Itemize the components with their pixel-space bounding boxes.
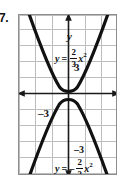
tick-label-x-negative: –3: [38, 108, 49, 119]
equation-lower-exponent: 2: [89, 162, 93, 169]
equation-upper-exponent: 2: [83, 52, 87, 59]
equation-upper-equals: =: [61, 54, 67, 64]
equation-lower-denominator: 3: [76, 170, 83, 175]
equation-lower-numerator: 2: [76, 158, 83, 167]
tick-label-y-negative: –3: [74, 145, 84, 155]
equation-label-downward-parabola: y = – 2 3 x 2: [55, 158, 93, 175]
equation-upper-lhs: y: [55, 54, 59, 64]
axis-label-y: y: [67, 31, 72, 42]
graph-figure: y x 3 –3 –3 3 y = 2 3 x 2 y = – 2 3 x 2: [18, 14, 117, 175]
equation-lower-equals: =: [61, 164, 67, 174]
equation-upper-numerator: 2: [70, 48, 77, 57]
equation-label-upward-parabola: y = 2 3 x 2: [55, 48, 87, 69]
equation-lower-lhs: y: [55, 164, 59, 174]
equation-lower-sign: –: [69, 164, 74, 174]
equation-upper-denominator: 3: [70, 60, 77, 69]
problem-number: 7.: [0, 11, 8, 25]
equation-lower-fraction: 2 3: [76, 158, 83, 175]
equation-upper-fraction: 2 3: [70, 48, 77, 69]
